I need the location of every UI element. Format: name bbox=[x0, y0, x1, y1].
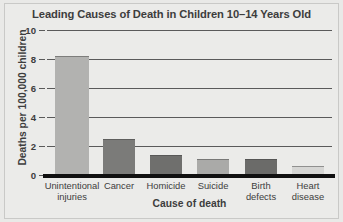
ytick-mark-10 bbox=[39, 30, 45, 31]
xtick-line-1: Cancer bbox=[95, 180, 143, 191]
y-axis-title: Deaths per 100,000 children bbox=[17, 18, 28, 178]
gridline-10 bbox=[47, 30, 332, 31]
bar-cancer[interactable] bbox=[103, 139, 135, 175]
chart-screenshot: Leading Causes of Death in Children 10–1… bbox=[0, 0, 343, 222]
bar-fill bbox=[103, 139, 135, 175]
ytick-label-2: 2 bbox=[20, 141, 36, 152]
gridline-6 bbox=[47, 88, 332, 89]
gridline-2 bbox=[47, 146, 332, 147]
xtick-label-cancer: Cancer bbox=[95, 180, 143, 191]
xtick-line-1: Birth bbox=[237, 180, 285, 191]
gridline-8 bbox=[47, 59, 332, 60]
chart-title: Leading Causes of Death in Children 10–1… bbox=[0, 8, 343, 20]
xtick-line-1: Heart bbox=[284, 180, 332, 191]
xtick-label-homicide: Homicide bbox=[140, 180, 192, 191]
x-axis-title: Cause of death bbox=[47, 198, 332, 209]
bar-suicide[interactable] bbox=[197, 159, 229, 175]
xtick-line-1: Suicide bbox=[189, 180, 237, 191]
bar-unintentional-injuries[interactable] bbox=[55, 56, 89, 175]
bar-fill bbox=[150, 155, 182, 175]
ytick-mark-8 bbox=[39, 59, 45, 60]
bar-fill bbox=[55, 56, 89, 175]
bar-birth-defects[interactable] bbox=[245, 159, 277, 175]
bar-fill bbox=[197, 159, 229, 175]
gridline-4 bbox=[47, 117, 332, 118]
plot-background bbox=[47, 30, 332, 175]
bar-homicide[interactable] bbox=[150, 155, 182, 175]
xtick-label-suicide: Suicide bbox=[189, 180, 237, 191]
ytick-mark-2 bbox=[39, 146, 45, 147]
ytick-label-0: 0 bbox=[20, 170, 36, 181]
ytick-label-10: 10 bbox=[20, 25, 36, 36]
ytick-label-8: 8 bbox=[20, 54, 36, 65]
ytick-label-6: 6 bbox=[20, 83, 36, 94]
bar-fill bbox=[245, 159, 277, 175]
x-axis-baseline bbox=[43, 174, 335, 178]
plot-area: 10 8 6 4 2 0 bbox=[47, 30, 332, 175]
ytick-mark-4 bbox=[39, 117, 45, 118]
xtick-line-1: Homicide bbox=[140, 180, 192, 191]
ytick-mark-6 bbox=[39, 88, 45, 89]
ytick-label-4: 4 bbox=[20, 112, 36, 123]
